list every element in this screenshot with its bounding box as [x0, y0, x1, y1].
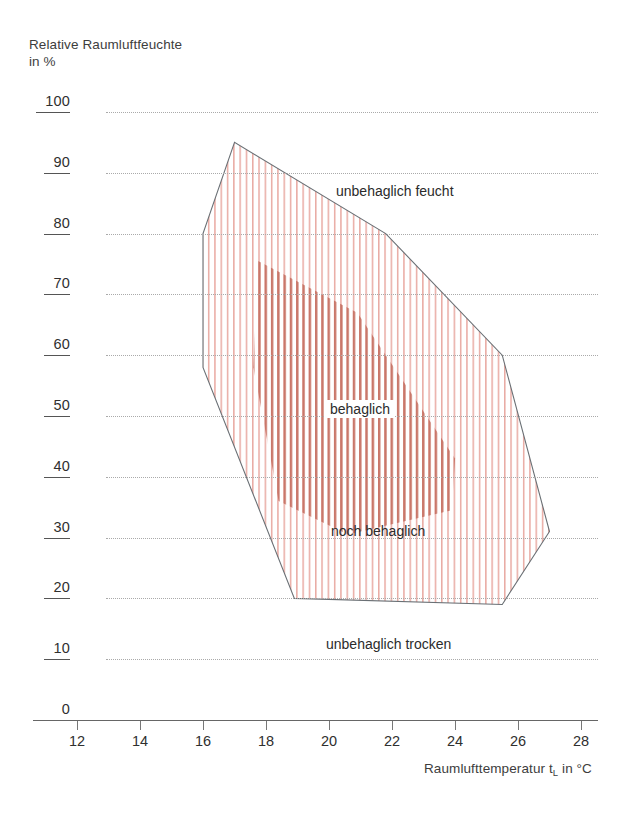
y-tick-label-80: 80	[30, 215, 70, 231]
x-tick-mark-20	[329, 721, 330, 730]
region-label-behaglich: behaglich	[325, 400, 395, 418]
y-tick-rule-100	[36, 112, 70, 113]
gridline-10	[106, 659, 598, 660]
x-tick-label-20: 20	[312, 733, 346, 749]
x-tick-mark-16	[203, 721, 204, 730]
x-tick-label-24: 24	[438, 733, 472, 749]
x-axis-title: Raumlufttemperatur tL in °C	[424, 760, 592, 781]
x-axis-title-tail: in °C	[558, 761, 592, 776]
gridline-70	[106, 294, 598, 295]
gridline-80	[106, 234, 598, 235]
x-tick-label-26: 26	[501, 733, 535, 749]
y-tick-label-90: 90	[30, 154, 70, 170]
y-tick-rule-90	[44, 173, 70, 174]
y-tick-label-0: 0	[30, 701, 70, 717]
region-label-unbehaglich-trocken: unbehaglich trocken	[321, 635, 456, 653]
y-tick-label-40: 40	[30, 458, 70, 474]
comfort-zone-chart: Relative Raumluftfeuchte in % 1009080706…	[0, 0, 631, 825]
plot-area	[0, 0, 631, 825]
y-tick-label-100: 100	[30, 93, 70, 109]
x-tick-label-16: 16	[186, 733, 220, 749]
x-tick-label-12: 12	[60, 733, 94, 749]
x-tick-label-18: 18	[249, 733, 283, 749]
gridline-90	[106, 173, 598, 174]
x-tick-mark-26	[518, 721, 519, 730]
y-tick-label-30: 30	[30, 519, 70, 535]
y-tick-label-60: 60	[30, 336, 70, 352]
x-tick-mark-12	[77, 721, 78, 730]
x-tick-label-22: 22	[375, 733, 409, 749]
x-tick-mark-14	[140, 721, 141, 730]
y-tick-rule-70	[44, 294, 70, 295]
y-tick-label-20: 20	[30, 579, 70, 595]
x-tick-label-28: 28	[564, 733, 598, 749]
y-tick-rule-20	[44, 598, 70, 599]
gridline-20	[106, 598, 598, 599]
x-tick-label-14: 14	[123, 733, 157, 749]
y-tick-label-70: 70	[30, 275, 70, 291]
x-tick-mark-22	[392, 721, 393, 730]
y-tick-rule-40	[44, 477, 70, 478]
y-tick-rule-60	[44, 355, 70, 356]
x-axis-line	[33, 720, 598, 721]
gridline-60	[106, 355, 598, 356]
x-axis-title-main: Raumlufttemperatur t	[424, 761, 553, 776]
x-tick-mark-28	[581, 721, 582, 730]
y-tick-rule-80	[44, 234, 70, 235]
gridline-100	[106, 112, 598, 113]
y-tick-rule-30	[44, 538, 70, 539]
x-tick-mark-18	[266, 721, 267, 730]
y-tick-label-50: 50	[30, 397, 70, 413]
y-tick-rule-50	[44, 416, 70, 417]
x-tick-mark-24	[455, 721, 456, 730]
gridline-40	[106, 477, 598, 478]
y-tick-rule-10	[44, 659, 70, 660]
region-label-unbehaglich-feucht: unbehaglich feucht	[331, 182, 459, 200]
y-tick-label-10: 10	[30, 640, 70, 656]
region-label-noch-behaglich: noch behaglich	[326, 522, 430, 540]
